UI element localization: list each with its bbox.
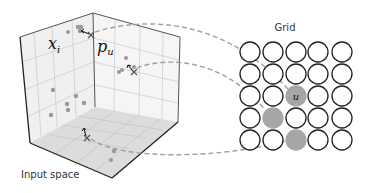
unit-u-label: u (293, 91, 299, 102)
grid-unit (263, 86, 283, 106)
input-space-label: Input space (21, 169, 79, 180)
grid-unit (240, 86, 260, 106)
grid-unit (240, 42, 260, 62)
grid-unit (308, 108, 328, 128)
grid-unit (332, 64, 352, 84)
grid-unit (240, 130, 260, 150)
grid-unit (332, 130, 352, 150)
grid-unit (286, 130, 306, 150)
grid-unit (240, 108, 260, 128)
grid-unit (263, 64, 283, 84)
grid-unit (263, 108, 283, 128)
grid-unit (286, 108, 306, 128)
grid-unit (286, 64, 306, 84)
grid-unit (240, 64, 260, 84)
grid-unit (263, 42, 283, 62)
grid-unit (263, 130, 283, 150)
grid-unit (332, 42, 352, 62)
grid-unit (308, 42, 328, 62)
grid-unit (308, 86, 328, 106)
grid-unit (308, 130, 328, 150)
grid-unit (286, 42, 306, 62)
grid-unit (308, 64, 328, 84)
diagram-canvas: xi pu Input space Grid u (0, 0, 371, 193)
grid-unit (332, 108, 352, 128)
grid-unit (332, 86, 352, 106)
grid-title: Grid (275, 22, 296, 33)
